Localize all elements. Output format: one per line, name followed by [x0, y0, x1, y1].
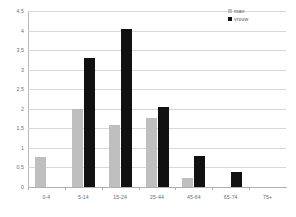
bar-man — [72, 109, 83, 187]
legend-item-man: man — [228, 8, 248, 14]
bar-group — [139, 11, 176, 187]
x-axis-tick-label: 75+ — [249, 194, 286, 200]
y-axis-tick-label: 4,5 — [16, 8, 28, 14]
x-axis-tick-mark — [65, 187, 66, 190]
x-axis-tick-label: 45-64 — [175, 194, 212, 200]
man-swatch-icon — [228, 9, 232, 13]
legend-label-vrouw: vrouw — [234, 16, 248, 22]
bar-man — [182, 178, 193, 187]
x-axis-tick-mark — [28, 187, 29, 190]
x-axis-tick-mark — [249, 187, 250, 190]
y-axis-tick-label: 4 — [21, 28, 28, 34]
x-axis-tick — [175, 187, 212, 191]
plot-area: 00,511,522,533,544,5 — [28, 11, 286, 187]
x-axis-tick-label: 0-4 — [28, 194, 65, 200]
legend-label-man: man — [234, 8, 244, 14]
bar-vrouw — [121, 29, 132, 187]
bar-group — [102, 11, 139, 187]
bar-vrouw — [231, 172, 242, 187]
bar-man — [146, 118, 157, 187]
y-axis-tick-label: 1 — [21, 145, 28, 151]
x-axis-tick — [212, 187, 249, 191]
bar-man — [109, 125, 120, 187]
bar-group — [28, 11, 65, 187]
x-axis-tick-mark — [212, 187, 213, 190]
bar-group — [249, 11, 286, 187]
y-axis-tick-label: 1,5 — [16, 125, 28, 131]
x-axis-tick-mark — [139, 187, 140, 190]
bar-group — [65, 11, 102, 187]
bar-chart: 00,511,522,533,544,5 0-45-1415-2425-4445… — [0, 0, 296, 217]
bar-vrouw — [158, 107, 169, 187]
y-axis-tick-label: 3,5 — [16, 47, 28, 53]
x-axis-tick — [139, 187, 176, 191]
x-axis-tick-label: 65-74 — [212, 194, 249, 200]
x-axis-tick — [102, 187, 139, 191]
y-axis-tick-label: 0,5 — [16, 164, 28, 170]
y-axis-tick-label: 0 — [21, 184, 28, 190]
bar-groups — [28, 11, 286, 187]
x-axis-tick — [65, 187, 102, 191]
y-axis-tick-label: 2 — [21, 106, 28, 112]
x-axis-tick-mark — [175, 187, 176, 190]
bar-vrouw — [194, 156, 205, 187]
x-axis-tick — [249, 187, 286, 191]
legend-item-vrouw: vrouw — [228, 16, 248, 22]
bar-vrouw — [84, 58, 95, 187]
vrouw-swatch-icon — [228, 17, 232, 21]
y-axis-tick-label: 2,5 — [16, 86, 28, 92]
x-axis-tick — [28, 187, 65, 191]
y-axis-tick-label: 3 — [21, 67, 28, 73]
x-axis-tick-labels: 0-45-1415-2425-4445-6465-7475+ — [28, 194, 286, 200]
x-axis-tick-marks — [28, 187, 286, 191]
chart-legend: man vrouw — [228, 8, 248, 22]
x-axis-tick-label: 15-24 — [102, 194, 139, 200]
bar-group — [175, 11, 212, 187]
x-axis-tick-label: 5-14 — [65, 194, 102, 200]
bar-man — [35, 157, 46, 188]
x-axis-tick-label: 25-44 — [139, 194, 176, 200]
bar-group — [212, 11, 249, 187]
x-axis-tick-mark — [102, 187, 103, 190]
